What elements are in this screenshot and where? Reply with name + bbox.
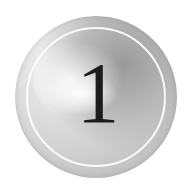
badge-numeral: 1 (15, 50, 177, 136)
number-badge: 1 (15, 16, 177, 178)
